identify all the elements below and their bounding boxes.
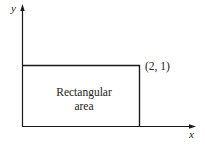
y-axis-arrow-icon: [20, 4, 24, 11]
rectangular-area-diagram: y x (2, 1) Rectangular area: [0, 0, 205, 149]
region-label: Rectangular area: [50, 85, 118, 113]
diagram-graphics: [0, 0, 205, 149]
y-axis-label: y: [11, 3, 16, 14]
point-label: (2, 1): [145, 61, 170, 73]
region-label-line1: Rectangular: [50, 85, 118, 99]
region-label-line2: area: [50, 99, 118, 113]
x-axis-label: x: [189, 129, 194, 140]
